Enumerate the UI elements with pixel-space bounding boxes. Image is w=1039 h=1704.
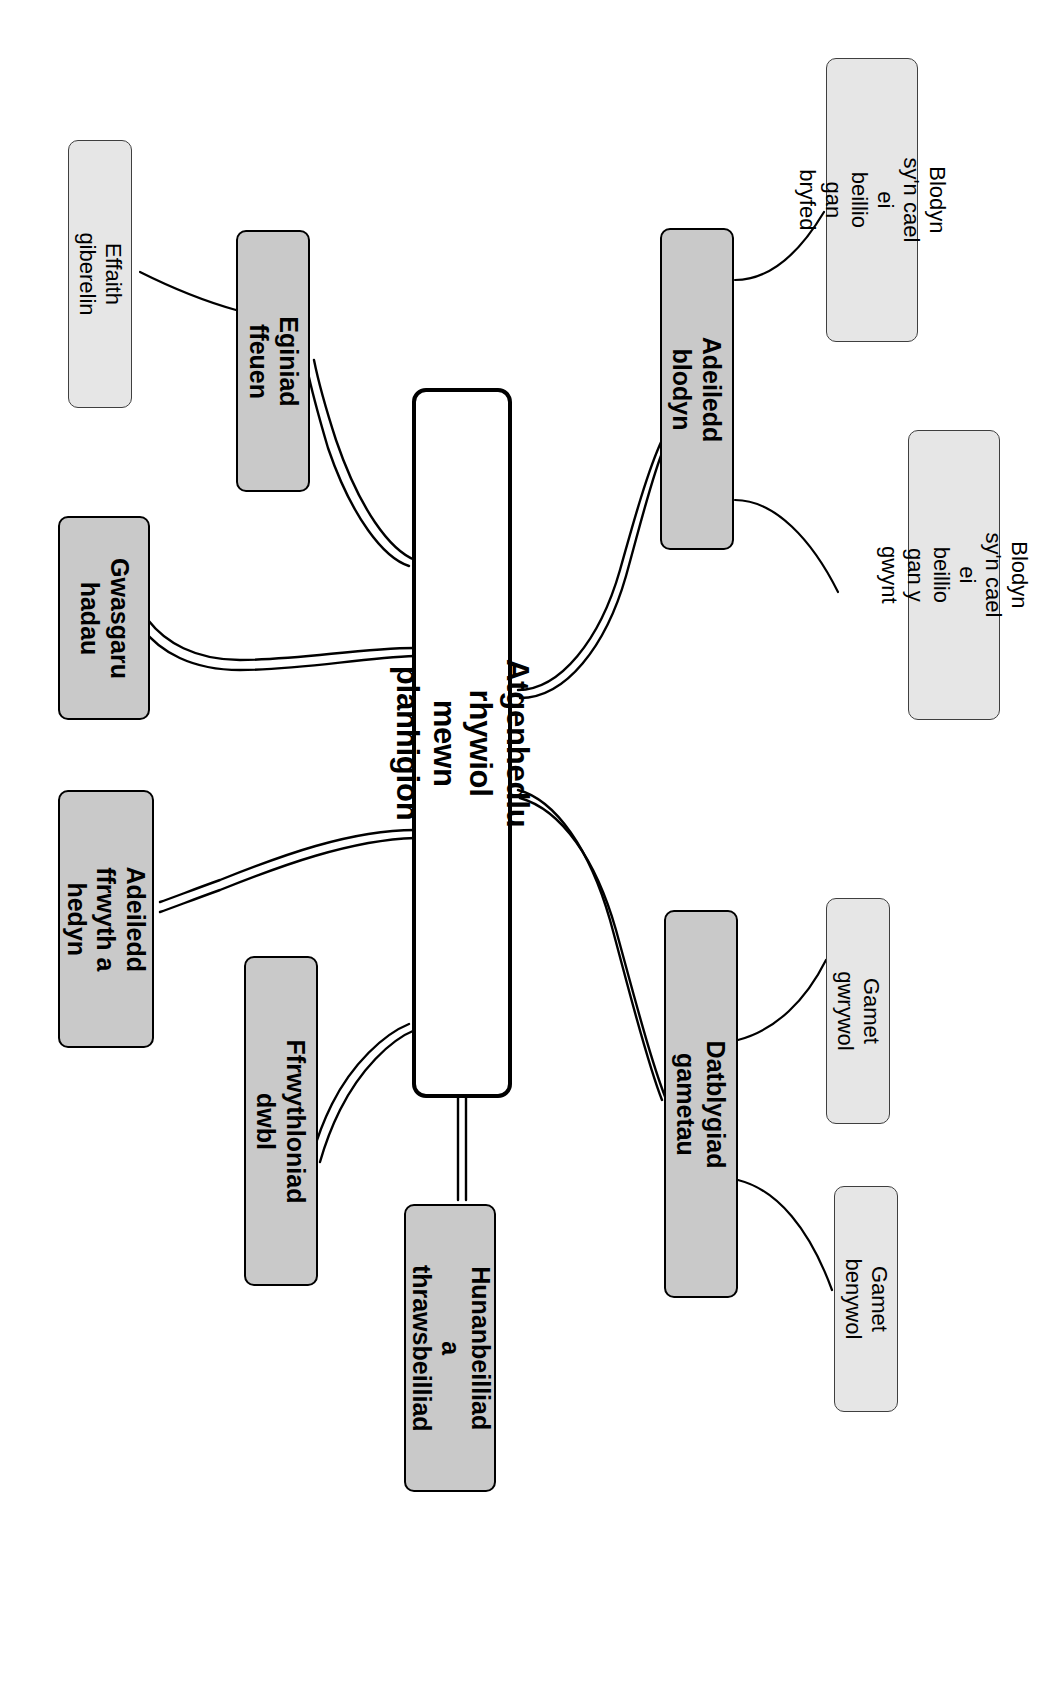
mind-map-canvas: Atgenhedlu rhywiol mewn planhigion Adeil…	[0, 0, 1039, 1704]
leaf-node-effaith-giberelin[interactable]: Effaith giberelin	[68, 140, 132, 408]
main-node-adeiledd-blodyn[interactable]: Adeiledd blodyn	[660, 228, 734, 550]
main-node-label: Adeiledd blodyn	[668, 336, 727, 442]
main-node-gwasgaru-hadau[interactable]: Gwasgaru hadau	[58, 516, 150, 720]
main-node-hunanbeilliad-a-thrawsbeilliad[interactable]: Hunanbeilliad a thrawsbeilliad	[404, 1204, 496, 1492]
main-node-label: Adeiledd ffrwyth a hedyn	[62, 866, 151, 972]
main-node-label: Gwasgaru hadau	[75, 558, 134, 679]
main-node-label: Ffrwythloniad dwbl	[252, 1039, 311, 1203]
main-node-label: Datblygiad gametau	[672, 1040, 731, 1168]
main-node-datblygiad-gametau[interactable]: Datblygiad gametau	[664, 910, 738, 1298]
edge-central-ffrwythloniad-dwbl	[312, 1024, 415, 1162]
main-node-label: Hunanbeilliad a thrawsbeilliad	[406, 1265, 495, 1432]
leaf-node-gamet-benywol[interactable]: Gamet benywol	[834, 1186, 898, 1412]
edge-central-adeiledd-blodyn	[518, 440, 664, 698]
main-node-eginiad-ffeuen[interactable]: Eginiad ffeuen	[236, 230, 310, 492]
edge-eginiad-effaith-giberelin	[140, 272, 236, 310]
leaf-node-label: Blodyn sy'n cael ei beillio gan bryfed	[794, 155, 950, 245]
leaf-node-gamet-gwrywol[interactable]: Gamet gwrywol	[826, 898, 890, 1124]
edge-central-datblygiad-gametau	[518, 790, 668, 1104]
central-node[interactable]: Atgenhedlu rhywiol mewn planhigion	[412, 388, 512, 1098]
edge-central-gwasgaru-hadau	[142, 620, 415, 670]
edge-central-hunanbeilliad	[458, 1098, 466, 1200]
leaf-node-blodyn-gwynt[interactable]: Blodyn sy'n cael ei beillio gan y gwynt	[908, 430, 1000, 720]
main-node-ffrwythloniad-dwbl[interactable]: Ffrwythloniad dwbl	[244, 956, 318, 1286]
leaf-node-label: Gamet gwrywol	[832, 971, 884, 1050]
main-node-label: Eginiad ffeuen	[244, 316, 303, 406]
leaf-node-label: Blodyn sy'n cael ei beillio gan y gwynt	[876, 530, 1032, 620]
edge-datblygiad-gamet-gwrywol	[738, 960, 826, 1040]
leaf-node-label: Gamet benywol	[840, 1259, 892, 1340]
central-node-label: Atgenhedlu rhywiol mewn planhigion	[389, 659, 535, 828]
edge-datblygiad-gamet-benywol	[738, 1180, 832, 1290]
main-node-adeiledd-ffrwyth-a-hedyn[interactable]: Adeiledd ffrwyth a hedyn	[58, 790, 154, 1048]
leaf-node-blodyn-pryfed[interactable]: Blodyn sy'n cael ei beillio gan bryfed	[826, 58, 918, 342]
edge-adeiledd-blodyn-gwynt	[735, 500, 838, 592]
edge-central-adeiledd-ffrwyth	[160, 830, 415, 912]
leaf-node-label: Effaith giberelin	[74, 232, 126, 315]
edge-central-eginiad-ffeuen	[307, 360, 415, 566]
